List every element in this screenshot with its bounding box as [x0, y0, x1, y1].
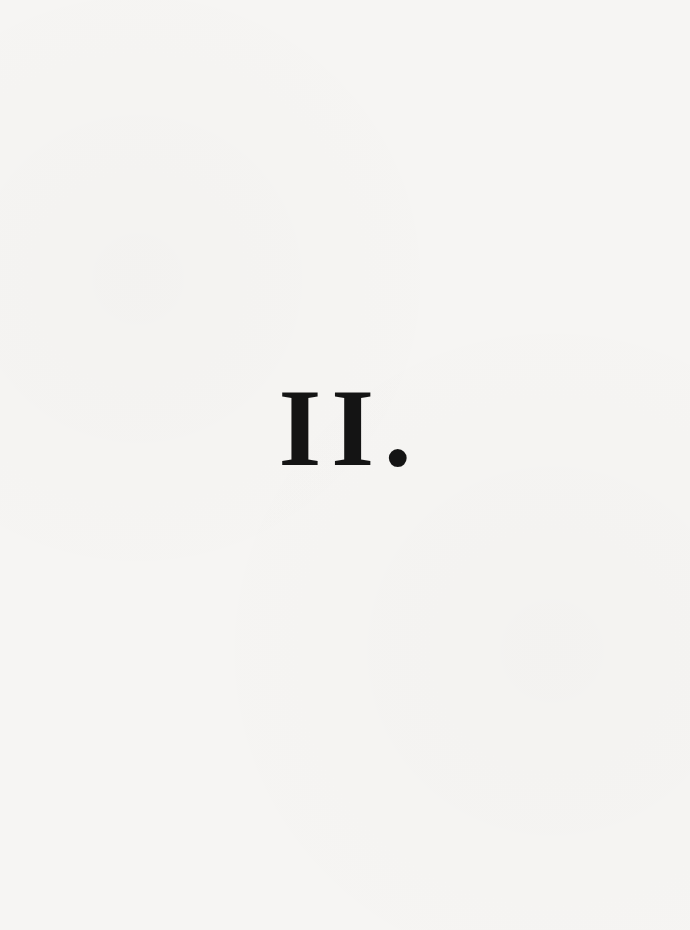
document-page: II.	[0, 0, 690, 930]
section-heading: II.	[0, 373, 690, 483]
